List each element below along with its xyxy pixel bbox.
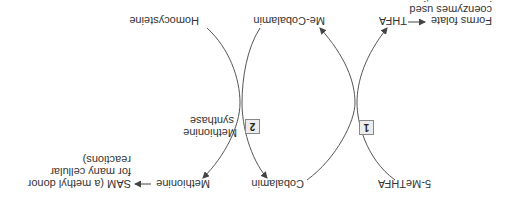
label-enzyme-methionine: Methionine <box>183 127 237 139</box>
step-box-1: 1 <box>359 120 374 135</box>
label-forms-folate: Forms folate <box>431 15 492 27</box>
label-sam: SAM (a methyl donor <box>28 178 131 190</box>
arrow-mecobalamin-to-cobalamin <box>242 28 267 178</box>
label-5-methfa: 5-MeTHFA <box>378 178 431 190</box>
step-box-2: 2 <box>245 119 260 134</box>
arrow-cobalamin-to-mecobalamin <box>307 28 355 180</box>
label-cobalamin: Cobalamin <box>251 178 304 190</box>
label-sam-note-2: reactions) <box>83 154 131 166</box>
label-sam-note-1: for many cellular <box>50 166 131 178</box>
label-enzyme-synthase: synthase <box>190 115 234 127</box>
label-folate-note-1: coenzymes used <box>409 4 492 16</box>
arrow-homocysteine-to-methionine <box>203 28 240 178</box>
folate-methionine-cycle-diagram: 5-MeTHFA Cobalamin Methionine SAM (a met… <box>0 0 525 206</box>
label-me-cobalamin: Me-Cobalamin <box>253 15 325 27</box>
label-thfa: THFA <box>379 15 407 27</box>
label-folate-note-2: in many reactions, <box>403 0 492 3</box>
label-homocysteine: Homocysteine <box>129 15 199 27</box>
label-methionine: Methionine <box>156 178 210 190</box>
arrow-methfa-to-thfa <box>357 28 395 180</box>
